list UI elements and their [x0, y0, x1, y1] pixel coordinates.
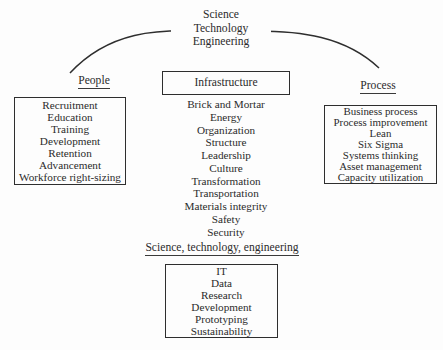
process-heading: Process [332, 79, 424, 93]
infrastructure-item: Transformation [165, 175, 287, 188]
people-item: Workforce right-sizing [15, 171, 125, 183]
diagram-canvas: Science Technology Engineering People Re… [0, 0, 443, 350]
apex-line-2: Technology [171, 22, 271, 36]
ste-item: Research [166, 289, 277, 301]
infrastructure-list: Brick and Mortar Energy Organization Str… [165, 98, 287, 238]
infrastructure-item: Materials integrity [165, 200, 287, 213]
infrastructure-box: Infrastructure [162, 71, 290, 95]
ste-item: IT [166, 265, 277, 277]
infrastructure-item: Structure [165, 136, 287, 149]
people-item: Education [15, 111, 125, 123]
process-heading-label: Process [360, 79, 395, 94]
arc-right-segment [256, 31, 379, 68]
ste-item: Data [166, 277, 277, 289]
infrastructure-heading-label: Infrastructure [163, 77, 289, 89]
ste-item: Development [166, 301, 277, 313]
infrastructure-item: Transportation [165, 187, 287, 200]
infrastructure-item: Security [165, 226, 287, 239]
people-item: Development [15, 135, 125, 147]
process-box: Business process Process improvement Lea… [324, 105, 437, 184]
people-heading-label: People [78, 74, 110, 89]
apex-title: Science Technology Engineering [171, 8, 271, 49]
apex-line-3: Engineering [171, 35, 271, 49]
people-heading: People [48, 74, 140, 88]
infrastructure-item: Leadership [165, 149, 287, 162]
infrastructure-item: Culture [165, 162, 287, 175]
infrastructure-item: Safety [165, 213, 287, 226]
infrastructure-item: Brick and Mortar [165, 98, 287, 111]
people-item: Training [15, 123, 125, 135]
ste-heading: Science, technology, engineering [132, 241, 312, 255]
infrastructure-item: Energy [165, 111, 287, 124]
process-item: Capacity utilization [325, 172, 436, 183]
apex-line-1: Science [171, 8, 271, 22]
infrastructure-item: Organization [165, 124, 287, 137]
ste-box: IT Data Research Development Prototyping… [165, 264, 278, 338]
people-item: Retention [15, 147, 125, 159]
ste-item: Sustainability [166, 325, 277, 337]
people-item: Recruitment [15, 99, 125, 111]
ste-item: Prototyping [166, 313, 277, 325]
ste-heading-label: Science, technology, engineering [145, 241, 298, 256]
people-box: Recruitment Education Training Developme… [14, 97, 126, 185]
people-item: Advancement [15, 159, 125, 171]
